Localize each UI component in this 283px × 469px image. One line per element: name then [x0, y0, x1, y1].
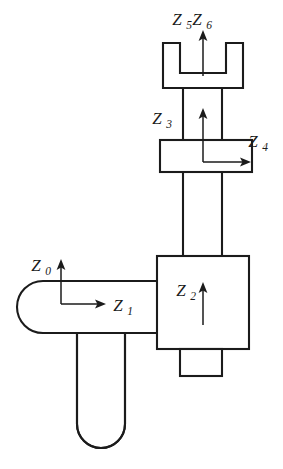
axis-sublabel-z1: 1: [127, 305, 133, 317]
axis-label-z6: Z: [192, 10, 202, 29]
body-bottom-stub: [180, 349, 222, 376]
axis-sublabel-z2: 2: [190, 290, 196, 302]
axis-label-z1: Z: [113, 296, 123, 315]
horizontal-arm: [17, 281, 172, 333]
axis-label-z0: Z: [31, 256, 41, 275]
robot-manipulator-diagram: Z 5 Z 6 Z 3 Z 4 Z 2 Z 0 Z 1: [0, 0, 283, 469]
wrist-joint-block: [160, 140, 252, 172]
axis-label-z4: Z: [248, 132, 258, 151]
robot-diagram-canvas: Z 5 Z 6 Z 3 Z 4 Z 2 Z 0 Z 1: [0, 0, 283, 469]
axis-sublabel-z5: 5: [186, 19, 192, 31]
axis-sublabel-z0: 0: [45, 265, 51, 277]
axis-sublabel-z6: 6: [206, 19, 212, 31]
axis-sublabel-z4: 4: [262, 141, 268, 153]
axis-label-z2: Z: [176, 281, 186, 300]
vertical-leg-column: [77, 333, 125, 448]
axis-label-z3: Z: [152, 109, 162, 128]
axis-sublabel-z3: 3: [165, 118, 172, 130]
axis-arrow-z5-z6: [199, 30, 208, 76]
axis-label-z5: Z: [172, 10, 182, 29]
